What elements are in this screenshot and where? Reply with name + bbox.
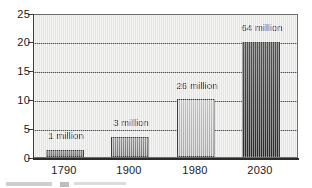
- y-tick-label-5: 5: [6, 124, 30, 135]
- x-tick-label-1900: 1900: [99, 164, 159, 176]
- value-label-1980: 26 million: [158, 81, 236, 91]
- bar-2030[interactable]: [242, 42, 280, 157]
- bar-texture-1790: [47, 151, 83, 156]
- x-tick-label-2030: 2030: [230, 164, 290, 176]
- y-tick-label-15: 15: [6, 66, 30, 77]
- y-tick-label-0: 0: [6, 153, 30, 164]
- y-tick-label-25: 25: [6, 9, 30, 20]
- bar-1790[interactable]: [46, 150, 84, 157]
- bar-texture-1900: [112, 138, 148, 156]
- x-axis-line: [33, 158, 299, 160]
- bar-chart-figure: 1 million 3 million 26 million 64 millio…: [0, 0, 312, 188]
- bleed-mark-b: [60, 182, 69, 187]
- bar-1980[interactable]: [177, 99, 215, 157]
- x-tick-label-1980: 1980: [165, 164, 225, 176]
- value-label-2030: 64 million: [223, 23, 298, 33]
- bar-1900[interactable]: [111, 137, 149, 157]
- bar-texture-1980: [178, 100, 214, 156]
- page-bleed-area: [0, 179, 312, 188]
- value-label-1900: 3 million: [92, 118, 170, 128]
- y-tick-label-10: 10: [6, 95, 30, 106]
- value-label-1790: 1 million: [33, 131, 105, 141]
- y-tick-label-20: 20: [6, 37, 30, 48]
- bar-texture-2030: [243, 43, 279, 156]
- x-tick-label-1790: 1790: [34, 164, 94, 176]
- plot-area: 1 million 3 million 26 million 64 millio…: [33, 14, 298, 158]
- bleed-mark-a: [6, 182, 52, 186]
- bleed-mark-c: [74, 182, 126, 185]
- y-axis-line: [33, 14, 34, 159]
